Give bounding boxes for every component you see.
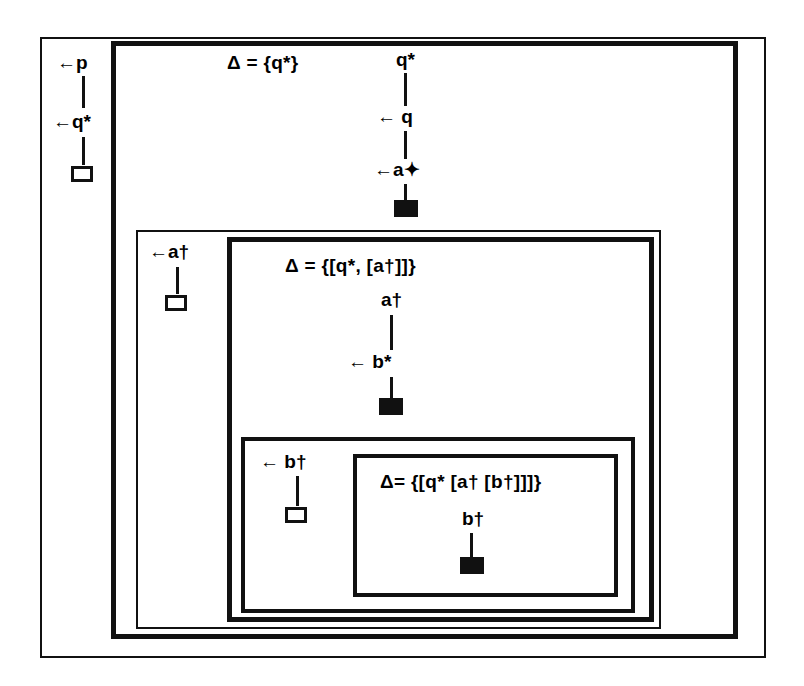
- level-1-center-line-3: [404, 184, 407, 201]
- level-1-left-line-upper: [82, 76, 85, 108]
- level-3-center-line-2: [390, 377, 393, 399]
- level-1-node-q-star: q*: [396, 50, 415, 69]
- level-5-center-filled-square: [460, 557, 484, 574]
- level-5-node-b-dagger: b†: [462, 509, 484, 528]
- level-2-left-open-square: [165, 295, 187, 311]
- diagram-canvas: ←p ←q* Δ = {q*} q* ← q ←a✦ ←a† Δ = {[q*,…: [0, 0, 804, 686]
- level-2-left-top-label: ←a†: [149, 242, 189, 261]
- level-1-left-open-square: [71, 166, 93, 182]
- level-3-node-b-star: ← b*: [348, 352, 391, 371]
- level-4-left-top-label: ← b†: [260, 452, 306, 471]
- level-1-left-mid-label: ←q*: [53, 112, 91, 131]
- level-1-center-line-2: [404, 131, 407, 159]
- level-4-left-open-square: [285, 507, 307, 523]
- level-1-center-line-1: [404, 73, 407, 106]
- level-1-node-q: ← q: [377, 107, 413, 126]
- level-3-center-filled-square: [379, 398, 403, 415]
- level-2-left-line: [176, 267, 179, 294]
- level-4-left-line: [296, 476, 299, 506]
- level-3-center-line-1: [390, 315, 393, 350]
- level-3-delta-label: Δ = {[q*, [a†]]}: [285, 256, 416, 275]
- level-1-left-top-label: ←p: [57, 53, 88, 72]
- level-3-node-a-dagger: a†: [381, 290, 402, 309]
- level-1-left-line-lower: [82, 137, 85, 165]
- level-1-delta-label: Δ = {q*}: [227, 53, 299, 72]
- level-5-center-line: [470, 533, 473, 557]
- level-5-delta-label: Δ= {[q* [a† [b†]]]}: [380, 472, 541, 491]
- level-1-node-a-star: ←a✦: [374, 160, 420, 179]
- level-1-center-filled-square: [394, 200, 418, 217]
